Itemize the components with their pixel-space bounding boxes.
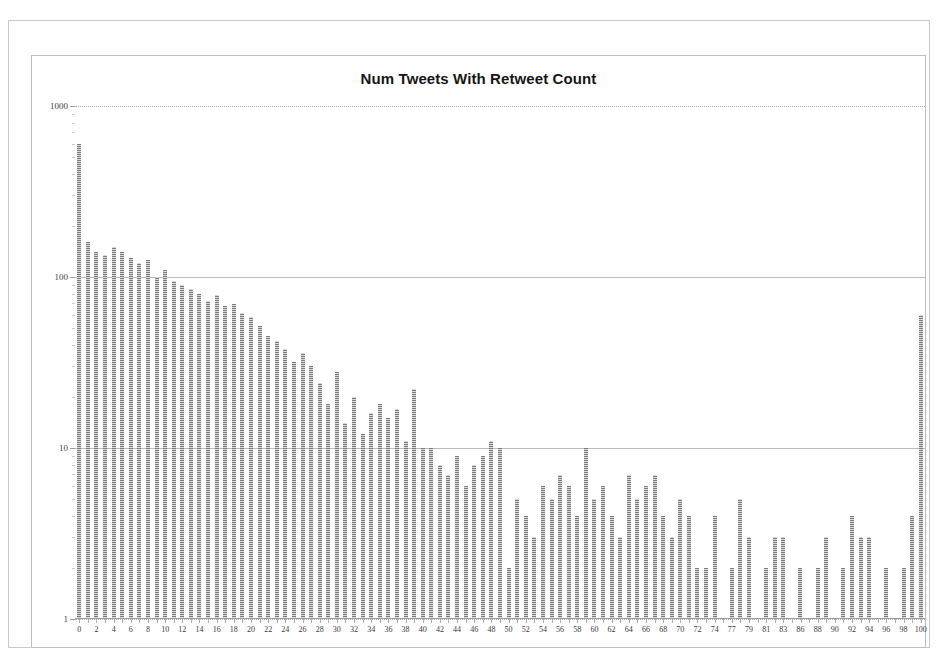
bar bbox=[841, 568, 845, 619]
x-tick-label: 83 bbox=[779, 625, 787, 634]
bar-slot bbox=[659, 106, 668, 619]
bar-slot bbox=[813, 106, 822, 619]
bar-slot bbox=[530, 106, 539, 619]
bar bbox=[258, 326, 262, 619]
x-tick-mark bbox=[715, 619, 716, 623]
bar-slot bbox=[333, 106, 342, 619]
bar-slot bbox=[496, 106, 505, 619]
x-tick-label: 6 bbox=[129, 625, 133, 634]
x-tick-mark bbox=[904, 619, 905, 623]
bar-slot bbox=[272, 106, 281, 619]
x-tick-mark bbox=[629, 619, 630, 623]
y-tick-label: 100 bbox=[55, 272, 69, 282]
bar-slot bbox=[161, 106, 170, 619]
bar bbox=[601, 486, 605, 619]
x-tick-mark bbox=[406, 619, 407, 623]
bar-slot bbox=[762, 106, 771, 619]
bar-slot bbox=[590, 106, 599, 619]
x-tick-mark bbox=[328, 619, 329, 623]
bar-slot bbox=[350, 106, 359, 619]
bar bbox=[318, 383, 322, 619]
bar-slot bbox=[616, 106, 625, 619]
x-tick-mark bbox=[148, 619, 149, 623]
x-tick-label: 18 bbox=[230, 625, 238, 634]
bar-slot bbox=[642, 106, 651, 619]
x-tick-mark bbox=[182, 619, 183, 623]
bar bbox=[678, 499, 682, 619]
bar bbox=[301, 353, 305, 619]
x-tick-label: 77 bbox=[728, 625, 736, 634]
x-tick-label: 30 bbox=[333, 625, 341, 634]
bar bbox=[446, 475, 450, 620]
x-tick-mark bbox=[191, 619, 192, 623]
bar-slot bbox=[298, 106, 307, 619]
bar-slot bbox=[393, 106, 402, 619]
bar-slot bbox=[230, 106, 239, 619]
bar bbox=[489, 441, 493, 619]
bar-slot bbox=[109, 106, 118, 619]
bar-slot bbox=[521, 106, 530, 619]
y-tick-label: 1 bbox=[64, 614, 69, 624]
bar-slot bbox=[264, 106, 273, 619]
bar bbox=[412, 389, 416, 619]
x-tick-mark bbox=[363, 619, 364, 623]
x-tick-label: 24 bbox=[281, 625, 289, 634]
y-tick-label: 1000 bbox=[50, 101, 68, 111]
x-tick-mark bbox=[543, 619, 544, 623]
x-tick-mark bbox=[809, 619, 810, 623]
bar bbox=[481, 456, 485, 619]
bar bbox=[910, 516, 914, 619]
y-tick-label: 10 bbox=[59, 443, 68, 453]
bar bbox=[438, 465, 442, 619]
x-tick-mark bbox=[766, 619, 767, 623]
bar-slot bbox=[899, 106, 908, 619]
x-tick-mark bbox=[337, 619, 338, 623]
x-tick-mark bbox=[912, 619, 913, 623]
x-tick-mark bbox=[354, 619, 355, 623]
bar bbox=[558, 475, 562, 620]
bar-slot bbox=[856, 106, 865, 619]
x-tick-mark bbox=[886, 619, 887, 623]
bar-slot bbox=[427, 106, 436, 619]
bar-slot bbox=[624, 106, 633, 619]
bar-slot bbox=[908, 106, 917, 619]
x-tick-label: 16 bbox=[213, 625, 221, 634]
x-tick-mark bbox=[457, 619, 458, 623]
bar-slot bbox=[702, 106, 711, 619]
bar-slot bbox=[685, 106, 694, 619]
x-tick-mark bbox=[697, 619, 698, 623]
bar bbox=[455, 456, 459, 619]
bar bbox=[103, 255, 107, 619]
bar-slot bbox=[873, 106, 882, 619]
bar bbox=[283, 349, 287, 619]
bar bbox=[223, 306, 227, 619]
x-tick-mark bbox=[466, 619, 467, 623]
x-tick-label: 50 bbox=[505, 625, 513, 634]
x-tick-mark bbox=[732, 619, 733, 623]
bar bbox=[498, 448, 502, 619]
bar bbox=[618, 537, 622, 619]
bar-slot bbox=[255, 106, 264, 619]
bar-slot bbox=[539, 106, 548, 619]
bar-slot bbox=[135, 106, 144, 619]
bar bbox=[137, 263, 141, 619]
bar bbox=[421, 448, 425, 619]
x-tick-mark bbox=[311, 619, 312, 623]
x-tick-mark bbox=[294, 619, 295, 623]
bar-slot bbox=[891, 106, 900, 619]
x-tick-mark bbox=[105, 619, 106, 623]
x-tick-mark bbox=[680, 619, 681, 623]
bar-slot bbox=[736, 106, 745, 619]
x-tick-mark bbox=[199, 619, 200, 623]
bar-slot bbox=[513, 106, 522, 619]
x-tick-mark bbox=[672, 619, 673, 623]
x-tick-label: 64 bbox=[625, 625, 633, 634]
x-tick-label: 68 bbox=[659, 625, 667, 634]
bar bbox=[395, 409, 399, 619]
bar-slot bbox=[453, 106, 462, 619]
x-tick-mark bbox=[380, 619, 381, 623]
bar-slot bbox=[418, 106, 427, 619]
x-tick-mark bbox=[517, 619, 518, 623]
x-tick-mark bbox=[251, 619, 252, 623]
bar bbox=[232, 304, 236, 620]
